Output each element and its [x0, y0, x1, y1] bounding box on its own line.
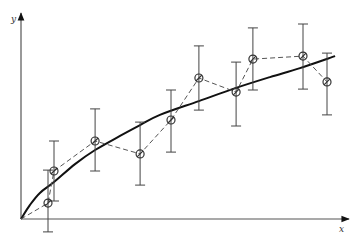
dashed-connector-line — [21, 56, 327, 219]
y-axis-label: y — [10, 14, 17, 24]
x-axis: x — [21, 219, 349, 234]
data-markers — [44, 52, 331, 207]
error-bars — [43, 24, 332, 232]
y-axis: y — [10, 13, 21, 219]
x-axis-label: x — [339, 224, 344, 234]
fit-curve — [21, 56, 335, 219]
chart: x y — [0, 0, 360, 242]
